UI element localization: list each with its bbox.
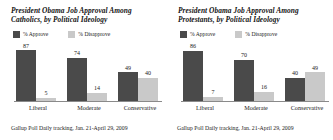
bar-group: 74 14	[67, 42, 111, 101]
x-tick-label: Liberal	[183, 104, 227, 112]
legend-swatch-disapprove-icon	[68, 31, 75, 38]
legend-swatch-disapprove-icon	[235, 31, 242, 38]
bar-wrap-approve: 40	[285, 42, 305, 101]
chart-legend: % Approve % Disapprove	[13, 30, 160, 39]
bar-wrap-approve: 74	[67, 42, 87, 101]
legend-item-approve: % Approve	[180, 31, 215, 38]
bar-value: 49	[125, 65, 131, 72]
bar-value: 40	[292, 70, 298, 77]
bar-groups: 86 7 70 16	[183, 42, 329, 101]
legend-label-approve: % Approve	[190, 31, 215, 38]
bar-groups: 87 5 74 14	[16, 42, 162, 101]
bar-value: 74	[74, 50, 80, 57]
bar-value: 5	[45, 90, 48, 97]
bar-disapprove	[305, 72, 325, 101]
bar-group: 70 16	[234, 42, 278, 101]
x-tick-label: Conservative	[285, 104, 329, 112]
source-note: Gallup Poll Daily tracking, Jan. 21-Apri…	[177, 125, 294, 132]
page-title: President Obama Job Approval Among Catho…	[11, 6, 163, 25]
bar-group: 40 49	[285, 42, 329, 101]
bar-approve	[16, 50, 36, 101]
bar-group: 49 40	[118, 42, 162, 101]
bar-wrap-approve: 86	[183, 42, 203, 101]
bar-value: 14	[94, 85, 100, 92]
bar-value: 86	[190, 43, 196, 50]
bar-wrap-approve: 49	[118, 42, 138, 101]
legend-swatch-approve-icon	[180, 31, 187, 38]
x-axis-labels: Liberal Moderate Conservative	[181, 104, 331, 113]
bar-wrap-approve: 87	[16, 42, 36, 101]
bar-wrap-disapprove: 5	[36, 42, 56, 101]
legend-label-disapprove: % Disapprove	[245, 31, 277, 38]
chart-panel-protestants: President Obama Job Approval Among Prote…	[166, 0, 332, 140]
x-tick-label: Conservative	[118, 104, 162, 112]
plot-area: 86 7 70 16	[181, 42, 331, 102]
legend-label-approve: % Approve	[23, 31, 48, 38]
x-tick-label: Liberal	[16, 104, 60, 112]
legend-item-disapprove: % Disapprove	[68, 31, 110, 38]
legend-item-approve: % Approve	[13, 31, 48, 38]
chart-legend: % Approve % Disapprove	[180, 30, 326, 39]
bar-disapprove	[203, 97, 223, 101]
bar-wrap-disapprove: 49	[305, 42, 325, 101]
bar-wrap-disapprove: 14	[87, 42, 107, 101]
bar-value: 87	[23, 43, 29, 50]
bar-wrap-disapprove: 7	[203, 42, 223, 101]
chart-sheet: President Obama Job Approval Among Catho…	[0, 0, 333, 140]
chart-panel-catholics: President Obama Job Approval Among Catho…	[0, 0, 166, 140]
bar-disapprove	[254, 92, 274, 101]
bar-value: 40	[145, 70, 151, 77]
bar-wrap-disapprove: 40	[138, 42, 158, 101]
bar-approve	[234, 60, 254, 101]
bar-wrap-approve: 70	[234, 42, 254, 101]
bar-wrap-disapprove: 16	[254, 42, 274, 101]
x-tick-label: Moderate	[67, 104, 111, 112]
bar-group: 87 5	[16, 42, 60, 101]
x-tick-label: Moderate	[234, 104, 278, 112]
axis-baseline	[181, 101, 329, 102]
x-axis-labels: Liberal Moderate Conservative	[14, 104, 164, 113]
bar-value: 7	[212, 89, 215, 96]
bar-value: 49	[312, 65, 318, 72]
page-title: President Obama Job Approval Among Prote…	[178, 6, 330, 25]
bar-disapprove	[36, 98, 56, 101]
bar-disapprove	[138, 78, 158, 101]
legend-item-disapprove: % Disapprove	[235, 31, 277, 38]
source-note: Gallup Poll Daily tracking, Jan. 21-Apri…	[11, 125, 128, 132]
bar-approve	[183, 51, 203, 101]
bar-approve	[118, 72, 138, 101]
bar-value: 70	[241, 52, 247, 59]
bar-approve	[285, 78, 305, 101]
bar-approve	[67, 58, 87, 101]
legend-label-disapprove: % Disapprove	[78, 31, 110, 38]
legend-swatch-approve-icon	[13, 31, 20, 38]
axis-baseline	[14, 101, 162, 102]
bar-group: 86 7	[183, 42, 227, 101]
bar-disapprove	[87, 93, 107, 101]
bar-value: 16	[261, 84, 267, 91]
plot-area: 87 5 74 14	[14, 42, 164, 102]
